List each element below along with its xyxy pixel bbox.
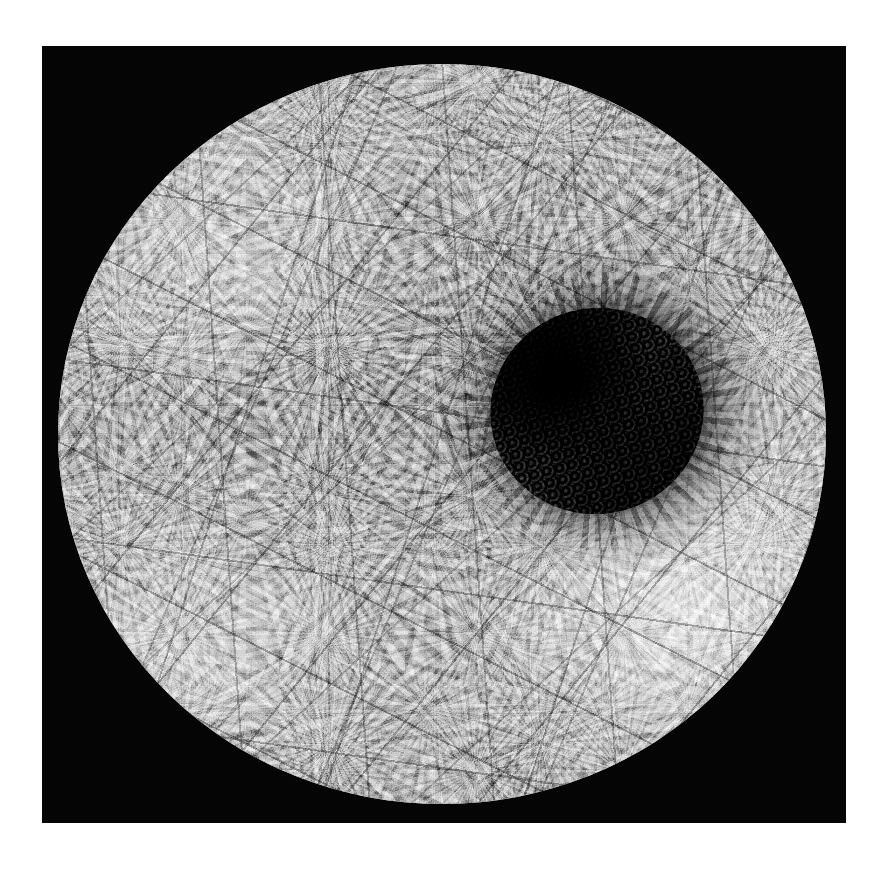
figure-caption — [0, 0, 1, 1]
specimen-disc — [58, 64, 826, 804]
image-canvas: Grayscale micrograph of a round specimen… — [0, 0, 887, 879]
figure-alt-text: Grayscale micrograph of a round specimen… — [0, 0, 1, 1]
specimen-mount-field — [42, 46, 846, 823]
